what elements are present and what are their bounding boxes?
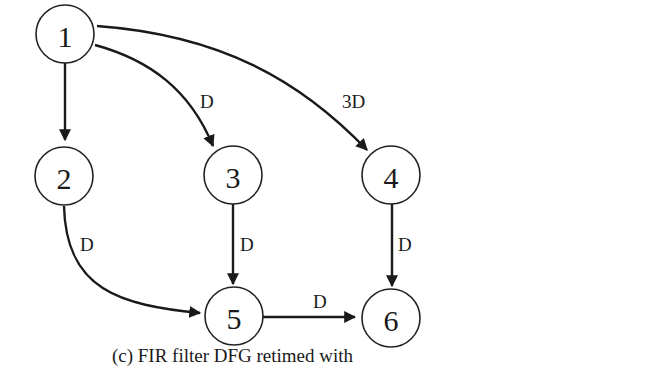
edge-label-1-4: 3D [342, 91, 365, 112]
svg-text:6: 6 [384, 304, 399, 337]
edge-label-3-5: D [240, 234, 254, 255]
node-3: 3 [204, 146, 262, 204]
edge-label-2-5: D [80, 234, 94, 255]
edge-1-4 [97, 26, 367, 150]
node-4: 4 [362, 146, 420, 204]
edge-label-4-6: D [398, 234, 412, 255]
svg-text:2: 2 [57, 162, 72, 195]
node-2: 2 [35, 147, 93, 205]
node-1: 1 [36, 5, 94, 63]
node-5: 5 [205, 287, 263, 345]
dfg-diagram: D 3D D D D D 1 2 3 4 5 6 [0, 0, 653, 383]
svg-text:5: 5 [227, 302, 242, 335]
svg-text:1: 1 [58, 20, 73, 53]
edge-label-5-6: D [313, 291, 327, 312]
node-6: 6 [362, 289, 420, 347]
edge-label-1-3: D [200, 91, 214, 112]
edge-2-5 [64, 206, 200, 313]
figure-caption: (c) FIR filter DFG retimed with [0, 345, 465, 367]
svg-text:4: 4 [384, 161, 399, 194]
edge-1-3 [95, 45, 213, 146]
svg-text:3: 3 [226, 161, 241, 194]
